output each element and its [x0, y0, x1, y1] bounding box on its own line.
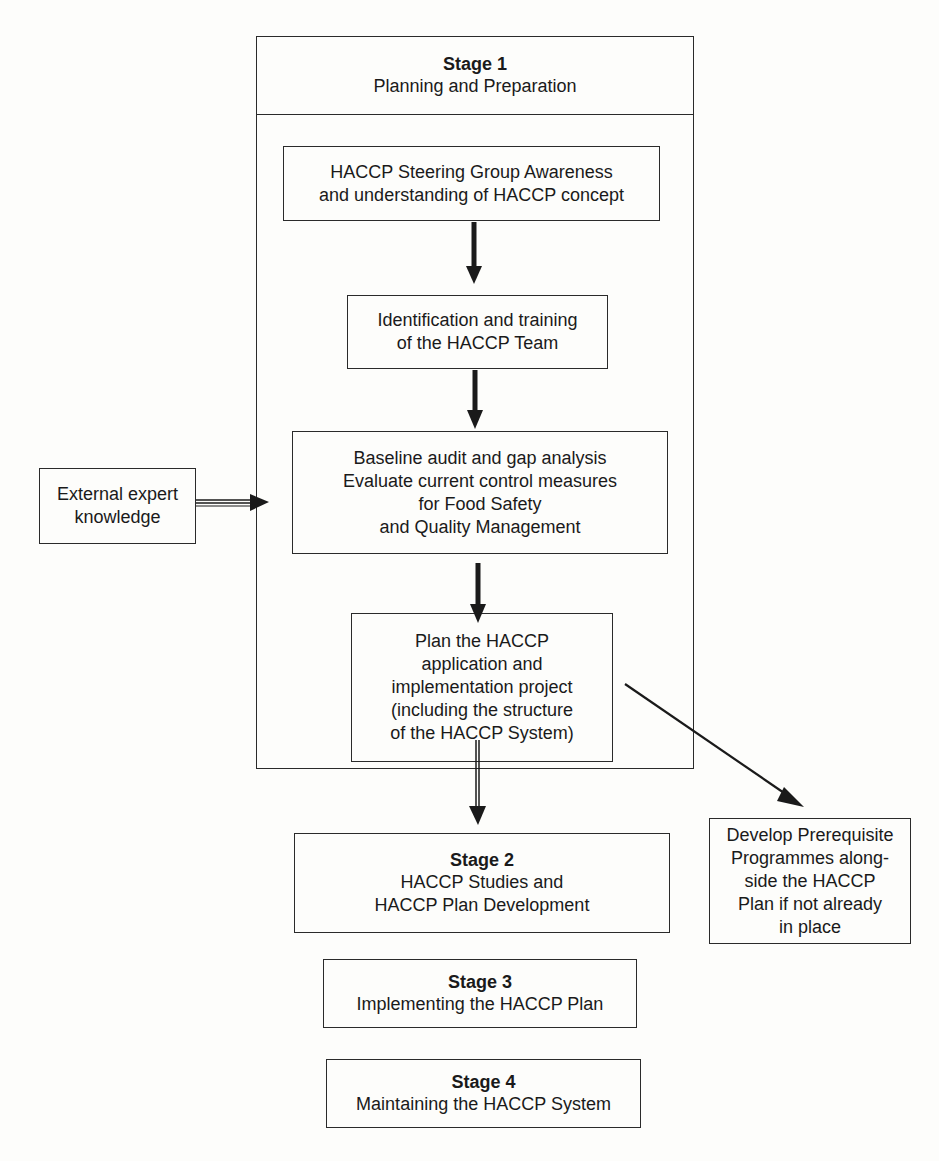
prereq-text: in place: [779, 916, 841, 939]
stage1-header: Stage 1 Planning and Preparation: [257, 37, 693, 115]
step-text: and understanding of HACCP concept: [319, 184, 624, 207]
prereq-text: Plan if not already: [738, 893, 882, 916]
step-text: of the HACCP Team: [397, 332, 558, 355]
prerequisite-programmes-box: Develop Prerequisite Programmes along- s…: [709, 818, 911, 944]
step-text: Baseline audit and gap analysis: [353, 447, 606, 470]
stage3-text: Implementing the HACCP Plan: [357, 993, 604, 1016]
step-text: of the HACCP System): [390, 722, 574, 745]
step-plan-haccp-project: Plan the HACCP application and implement…: [351, 613, 613, 762]
external-expert-knowledge-box: External expert knowledge: [39, 468, 196, 544]
prereq-text: Develop Prerequisite: [726, 824, 893, 847]
stage1-subtitle: Planning and Preparation: [373, 75, 576, 98]
stage2-box: Stage 2 HACCP Studies and HACCP Plan Dev…: [294, 833, 670, 933]
external-text: External expert: [57, 483, 178, 506]
stage1-title: Stage 1: [443, 53, 507, 75]
step-text: implementation project: [391, 676, 572, 699]
step-text: for Food Safety: [418, 493, 541, 516]
stage4-text: Maintaining the HACCP System: [356, 1093, 611, 1116]
stage3-title: Stage 3: [448, 971, 512, 993]
step-text: Plan the HACCP: [415, 630, 549, 653]
stage4-title: Stage 4: [451, 1071, 515, 1093]
prereq-text: side the HACCP: [744, 870, 875, 893]
stage2-text: HACCP Studies and: [401, 871, 564, 894]
stage3-box: Stage 3 Implementing the HACCP Plan: [323, 959, 637, 1028]
step-text: HACCP Steering Group Awareness: [330, 161, 612, 184]
prereq-text: Programmes along-: [731, 847, 889, 870]
step-team-identification-training: Identification and training of the HACCP…: [347, 295, 608, 369]
step-baseline-audit: Baseline audit and gap analysis Evaluate…: [292, 431, 668, 554]
external-text: knowledge: [74, 506, 160, 529]
step-text: (including the structure: [391, 699, 573, 722]
step-text: Evaluate current control measures: [343, 470, 617, 493]
stage2-title: Stage 2: [450, 849, 514, 871]
step-text: Identification and training: [377, 309, 577, 332]
step-steering-group-awareness: HACCP Steering Group Awareness and under…: [283, 146, 660, 221]
step-text: application and: [421, 653, 542, 676]
stage2-text: HACCP Plan Development: [375, 894, 590, 917]
stage4-box: Stage 4 Maintaining the HACCP System: [326, 1059, 641, 1128]
step-text: and Quality Management: [379, 516, 580, 539]
